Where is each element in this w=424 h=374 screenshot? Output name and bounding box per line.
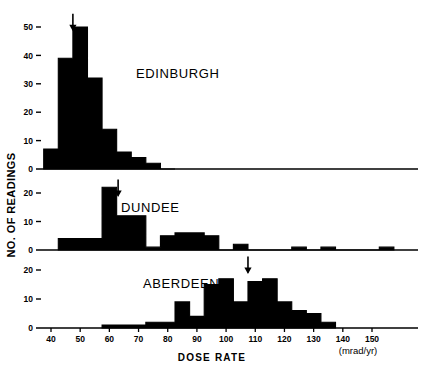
xtick-label-110: 110 [248, 334, 262, 344]
ytick-label-dundee-20: 20 [24, 188, 34, 198]
xtick-label-50: 50 [75, 334, 85, 344]
ytick-label-edinburgh-0: 0 [28, 164, 33, 174]
xtick-label-100: 100 [219, 334, 233, 344]
ytick-label-edinburgh-30: 30 [24, 79, 34, 89]
xtick-label-140: 140 [336, 334, 350, 344]
x-axis: 405060708090100110120130140150 [46, 328, 379, 344]
x-axis-units: (mrad/yr) [339, 345, 378, 356]
figure-histograms-dose-rate: 01020304050EDINBURGH01020DUNDEE01020ABER… [0, 0, 424, 374]
ytick-label-edinburgh-20: 20 [24, 107, 34, 117]
xtick-label-90: 90 [192, 334, 202, 344]
histogram-bars-dundee [58, 187, 394, 250]
ytick-label-aberdeen-0: 0 [28, 323, 33, 333]
xtick-label-150: 150 [365, 334, 379, 344]
xtick-label-40: 40 [46, 334, 56, 344]
ytick-label-dundee-10: 10 [24, 217, 34, 227]
y-axis-title: NO. OF READINGS [5, 152, 17, 257]
histogram-bars-edinburgh [44, 27, 175, 169]
panel-label-dundee: DUNDEE [121, 200, 180, 215]
panel-dundee: 01020DUNDEE [24, 180, 418, 256]
xtick-label-60: 60 [105, 334, 115, 344]
ytick-label-edinburgh-10: 10 [24, 136, 34, 146]
panel-label-aberdeen: ABERDEEN [143, 276, 219, 291]
ytick-label-aberdeen-20: 20 [24, 265, 34, 275]
panel-aberdeen: 01020ABERDEEN [24, 256, 418, 333]
ytick-label-edinburgh-40: 40 [24, 51, 34, 61]
xtick-label-130: 130 [307, 334, 321, 344]
panel-edinburgh: 01020304050EDINBURGH [24, 14, 418, 175]
panel-label-edinburgh: EDINBURGH [136, 66, 219, 81]
mean-arrow-head-aberdeen [244, 267, 251, 274]
x-axis-title: DOSE RATE [178, 352, 246, 363]
histogram-svg: 01020304050EDINBURGH01020DUNDEE01020ABER… [0, 0, 424, 374]
ytick-label-edinburgh-50: 50 [24, 22, 34, 32]
ytick-label-aberdeen-10: 10 [24, 294, 34, 304]
xtick-label-80: 80 [163, 334, 173, 344]
xtick-label-120: 120 [277, 334, 291, 344]
xtick-label-70: 70 [134, 334, 144, 344]
ytick-label-dundee-0: 0 [28, 245, 33, 255]
